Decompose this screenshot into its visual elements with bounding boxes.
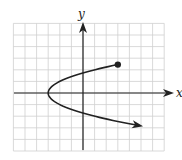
y-axis-label: y bbox=[77, 7, 85, 21]
parabola-graph: x y bbox=[0, 0, 182, 160]
grid bbox=[13, 23, 164, 151]
endpoint-dot bbox=[115, 61, 121, 67]
x-axis-label: x bbox=[176, 86, 182, 100]
